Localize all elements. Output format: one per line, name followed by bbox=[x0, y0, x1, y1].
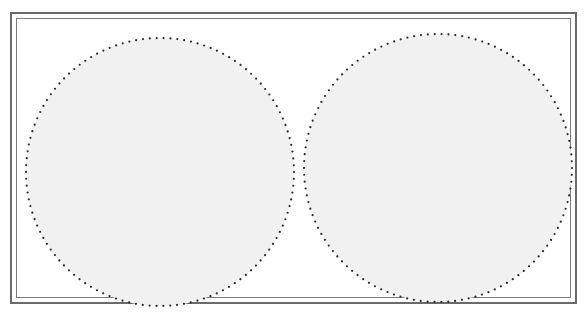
circles-figure bbox=[0, 0, 587, 316]
left-dotted-circle bbox=[26, 38, 294, 306]
right-dotted-circle bbox=[304, 34, 572, 302]
